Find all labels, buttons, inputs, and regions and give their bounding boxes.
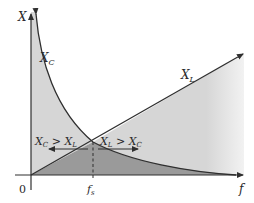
y-axis-label: X — [17, 10, 27, 24]
right-region-label: XL > XC — [99, 135, 143, 149]
origin-label: 0 — [19, 183, 26, 196]
x-axis-label: f — [238, 182, 246, 196]
xc-curve-label: XC — [39, 51, 55, 67]
reactance-diagram: X f 0 fs XC XL XC > XL XL > XC — [0, 0, 254, 203]
xl-line-label: XL — [180, 68, 195, 84]
left-region-label: XC > XL — [34, 135, 77, 149]
resonance-label: fs — [86, 183, 95, 197]
